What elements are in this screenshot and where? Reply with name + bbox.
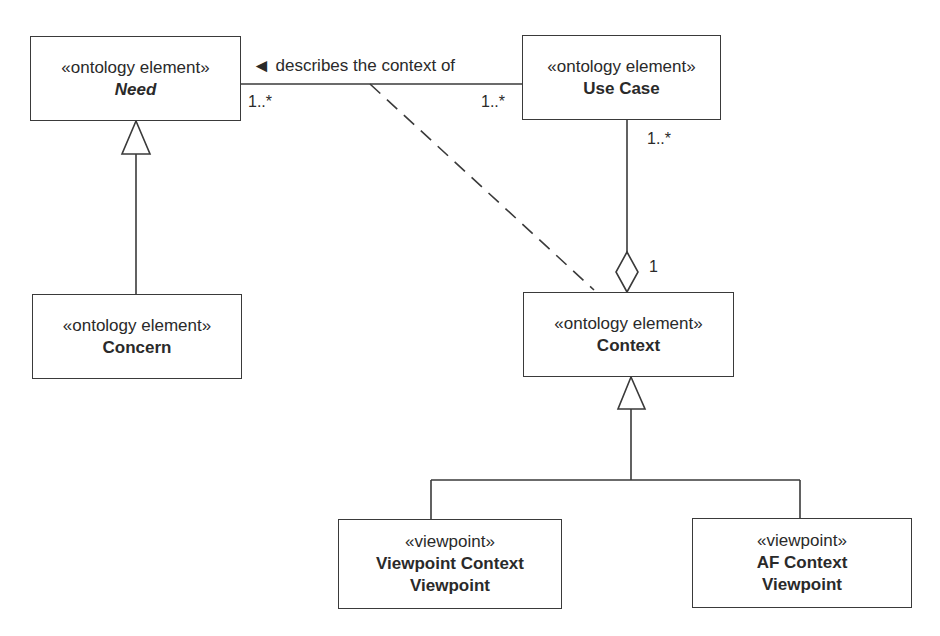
class-use-case[interactable]: «ontology element» Use Case — [522, 35, 721, 120]
multiplicity-need: 1..* — [248, 93, 272, 111]
class-name-line2: Viewpoint — [410, 575, 490, 597]
class-name-line1: AF Context — [757, 552, 848, 574]
stereotype-label: «ontology element» — [61, 57, 209, 79]
stereotype-label: «viewpoint» — [757, 530, 847, 552]
generalization-triangle-icon — [122, 121, 150, 154]
stereotype-label: «ontology element» — [63, 315, 211, 337]
multiplicity-context: 1 — [649, 258, 658, 276]
class-name-line1: Viewpoint Context — [376, 553, 524, 575]
multiplicity-usecase-aggregation: 1..* — [647, 130, 671, 148]
class-context[interactable]: «ontology element» Context — [523, 292, 734, 377]
stereotype-label: «viewpoint» — [405, 531, 495, 553]
class-name: Use Case — [583, 78, 660, 100]
class-viewpoint-context-viewpoint[interactable]: «viewpoint» Viewpoint Context Viewpoint — [338, 519, 562, 609]
class-name: Need — [115, 79, 157, 101]
class-need[interactable]: «ontology element» Need — [30, 36, 241, 121]
class-concern[interactable]: «ontology element» Concern — [32, 294, 242, 379]
stereotype-label: «ontology element» — [554, 313, 702, 335]
generalization-triangle-icon — [618, 377, 645, 409]
stereotype-label: «ontology element» — [547, 56, 695, 78]
class-name: Concern — [103, 337, 172, 359]
association-name: describes the context of — [276, 56, 456, 75]
multiplicity-usecase-left: 1..* — [481, 93, 505, 111]
aggregation-diamond-icon — [616, 252, 638, 292]
direction-arrow-icon: ◄ — [252, 55, 271, 76]
class-name-line2: Viewpoint — [762, 574, 842, 596]
association-label: ◄ describes the context of — [252, 54, 455, 76]
class-name: Context — [597, 335, 660, 357]
class-af-context-viewpoint[interactable]: «viewpoint» AF Context Viewpoint — [692, 518, 912, 608]
